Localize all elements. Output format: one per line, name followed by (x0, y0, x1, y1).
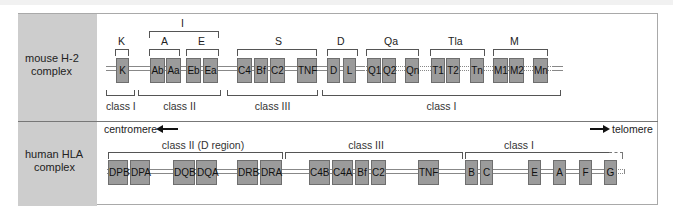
gene-d: D (327, 58, 340, 83)
subregion-e-label: E (198, 35, 205, 47)
gene-c4a: C4A (332, 160, 353, 185)
centromere-arrow-line (163, 128, 178, 130)
gene-a: A (553, 160, 566, 185)
gene-bf: Bf (254, 58, 268, 83)
subregion-e-bracket (186, 49, 219, 56)
gene-c4b: C4B (309, 160, 330, 185)
gene-mn: Mn (533, 58, 548, 83)
telomere-label: telomere (612, 123, 653, 135)
telomere-arrow-icon (603, 125, 610, 133)
gene-q1: Q1 (367, 58, 381, 83)
centromere-label: centromere (104, 123, 157, 135)
subregion-d-bracket (327, 49, 358, 56)
top-strip (0, 0, 673, 5)
human-label-column: human HLA complex (18, 122, 97, 206)
gene-dpb: DPB (108, 160, 128, 185)
mouse-class-ii-bracket (138, 90, 221, 96)
mhc-figure: mouse H-2 complex I K A E S D Qa Tla M K… (18, 13, 658, 205)
region-i-bracket (149, 31, 219, 38)
subregion-s-label: S (275, 35, 282, 47)
gene-bf: Bf (355, 160, 369, 185)
gene-eb: Eb (186, 58, 201, 83)
mouse-class-iii-label: class III (227, 100, 318, 112)
gene-tnf: TNF (418, 160, 439, 185)
mouse-h2-row: mouse H-2 complex I K A E S D Qa Tla M K… (18, 14, 658, 122)
human-class-ii-label: class II (D region) (108, 139, 298, 151)
mouse-class-i-label-2: class I (322, 100, 561, 112)
subregion-a-bracket (149, 49, 180, 56)
gene-l: L (343, 58, 356, 83)
subregion-k-bracket (115, 49, 129, 56)
gene-e: E (528, 160, 541, 185)
human-class-i-label: class I (464, 139, 574, 151)
mouse-chromosome-solid (106, 66, 363, 71)
gene-dqa: DQA (196, 160, 217, 185)
gene-tnf: TNF (297, 58, 317, 83)
gene-f: F (579, 160, 592, 185)
mouse-chromosome-end (553, 66, 563, 71)
human-species-label: human HLA complex (25, 148, 95, 174)
subregion-m-bracket (493, 49, 548, 56)
mouse-label-column: mouse H-2 complex (18, 14, 97, 121)
mouse-class-i-bracket-1 (106, 90, 135, 96)
gene-c2: C2 (371, 160, 386, 185)
human-class-iii-bracket (285, 152, 463, 159)
gene-ab: Ab (150, 58, 165, 83)
mouse-class-i-bracket-2 (322, 90, 561, 96)
subregion-k-label: K (118, 35, 125, 47)
gene-dqb: DQB (173, 160, 195, 185)
mouse-class-i-label-1: class I (106, 100, 135, 112)
mouse-class-iii-bracket (227, 90, 318, 96)
gene-drb: DRB (237, 160, 258, 185)
subregion-tla-label: Tla (448, 35, 463, 47)
human-class-iii-label: class III (286, 139, 446, 151)
region-i-label: I (181, 17, 184, 29)
human-class-i-bracket (465, 152, 609, 159)
gene-aa: Aa (166, 58, 181, 83)
gene-k: K (116, 58, 129, 83)
subregion-d-label: D (337, 35, 345, 47)
human-hla-row: human HLA complex centromere telomere cl… (18, 122, 658, 206)
subregion-qa-label: Qa (384, 35, 398, 47)
gene-g: G (604, 160, 617, 185)
centromere-arrow-icon (156, 125, 163, 133)
mouse-species-label: mouse H-2 complex (25, 52, 95, 78)
subregion-qa-bracket (366, 49, 419, 56)
human-class-i-bracket-dashed (609, 152, 623, 159)
gene-t2: T2 (446, 58, 460, 83)
telomere-arrow-line (590, 128, 604, 130)
subregion-a-label: A (161, 35, 168, 47)
gene-tn: Tn (470, 58, 484, 83)
gene-dra: DRA (260, 160, 282, 185)
gene-b: B (465, 160, 478, 185)
human-class-ii-bracket (108, 152, 283, 159)
gene-qn: Qn (405, 58, 419, 83)
gene-c: C (480, 160, 493, 185)
gene-c4: C4 (237, 58, 252, 83)
subregion-s-bracket (237, 49, 317, 56)
gene-m1: M1 (493, 58, 508, 83)
mouse-class-ii-label: class II (138, 100, 221, 112)
gene-dpa: DPA (130, 160, 150, 185)
gene-q2: Q2 (382, 58, 396, 83)
gene-c2: C2 (270, 58, 285, 83)
gene-t1: T1 (431, 58, 445, 83)
gene-ea: Ea (203, 58, 218, 83)
gene-m2: M2 (509, 58, 524, 83)
subregion-m-label: M (510, 35, 519, 47)
subregion-tla-bracket (430, 49, 485, 56)
